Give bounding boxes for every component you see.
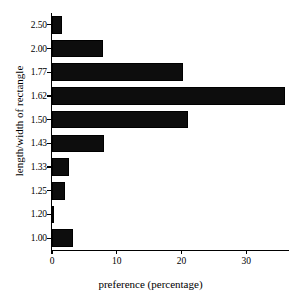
plot-area (52, 13, 289, 250)
y-axis-title: length/width of rectangle (13, 41, 25, 201)
bar-row (52, 226, 289, 250)
x-axis-tick-label: 30 (242, 256, 252, 267)
x-axis-tick (116, 250, 117, 254)
bar-row (52, 84, 289, 108)
x-axis-tick (181, 250, 182, 254)
bar (52, 111, 188, 129)
bar-row (52, 203, 289, 227)
bar (52, 206, 54, 224)
y-axis-tick-label: 2.50 (19, 20, 47, 30)
y-axis-tick (47, 238, 51, 239)
bar-row (52, 37, 289, 61)
bar-row (52, 108, 289, 132)
x-axis-tick-label: 0 (50, 256, 55, 267)
bar (52, 158, 69, 176)
bar (52, 135, 104, 153)
y-axis-tick (47, 166, 51, 167)
y-axis-tick (47, 95, 51, 96)
x-axis-tick-label: 20 (177, 256, 187, 267)
y-axis-tick (47, 72, 51, 73)
y-axis-tick (47, 119, 51, 120)
bar (52, 87, 285, 105)
bar (52, 16, 62, 34)
x-axis-tick (51, 250, 52, 254)
x-axis-tick-label: 10 (112, 256, 122, 267)
x-axis-title: preference (percentage) (0, 278, 301, 290)
y-axis-tick (47, 24, 51, 25)
y-axis-tick (47, 190, 51, 191)
x-axis-tick (246, 250, 247, 254)
bar-row (52, 60, 289, 84)
y-axis-tick (47, 214, 51, 215)
bar (52, 63, 183, 81)
bar (52, 182, 65, 200)
bar (52, 229, 73, 247)
bar-row (52, 13, 289, 37)
bar-row (52, 132, 289, 156)
y-axis-tick (47, 143, 51, 144)
bar-row (52, 179, 289, 203)
y-axis-tick (47, 48, 51, 49)
y-axis-tick-label: 1.00 (19, 233, 47, 243)
bar-chart-figure: 2.502.001.771.621.501.431.331.251.201.00… (0, 0, 301, 302)
y-axis-tick-label: 1.20 (19, 209, 47, 219)
bar (52, 40, 103, 58)
bar-row (52, 155, 289, 179)
